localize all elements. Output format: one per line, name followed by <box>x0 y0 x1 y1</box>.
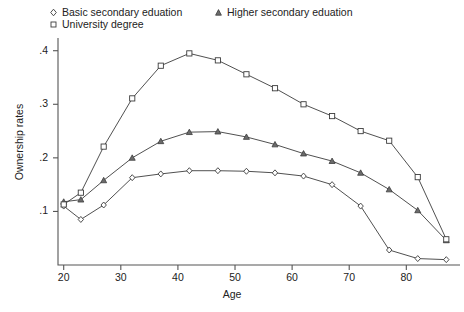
axes-lines <box>53 38 460 270</box>
data-point <box>272 86 277 91</box>
series-square <box>61 51 449 242</box>
data-point <box>415 175 420 180</box>
data-point <box>386 186 392 191</box>
data-point <box>78 216 83 222</box>
data-point <box>358 128 363 133</box>
data-point <box>444 257 449 263</box>
data-point <box>329 182 334 188</box>
data-point <box>301 102 306 107</box>
data-point <box>387 138 392 143</box>
data-point <box>272 170 277 176</box>
data-point <box>301 173 306 179</box>
data-series-group <box>61 51 450 263</box>
data-point <box>187 168 192 174</box>
data-point <box>158 63 163 68</box>
data-point <box>78 190 83 195</box>
chart-figure: Basic secondary eduation University degr… <box>0 0 464 312</box>
data-point <box>158 171 163 177</box>
data-point <box>130 96 135 101</box>
data-point <box>187 51 192 56</box>
data-point <box>444 237 449 242</box>
data-point <box>129 155 135 160</box>
series-triangle <box>61 129 450 243</box>
plot-area <box>0 0 464 312</box>
data-point <box>329 113 334 118</box>
data-point <box>215 168 220 174</box>
series-diamond <box>61 168 449 263</box>
data-point <box>415 207 421 212</box>
data-point <box>244 72 249 77</box>
data-point <box>244 168 249 174</box>
data-point <box>101 144 106 149</box>
data-point <box>358 170 364 175</box>
data-point <box>215 58 220 63</box>
data-point <box>415 256 420 262</box>
data-point <box>61 202 66 207</box>
